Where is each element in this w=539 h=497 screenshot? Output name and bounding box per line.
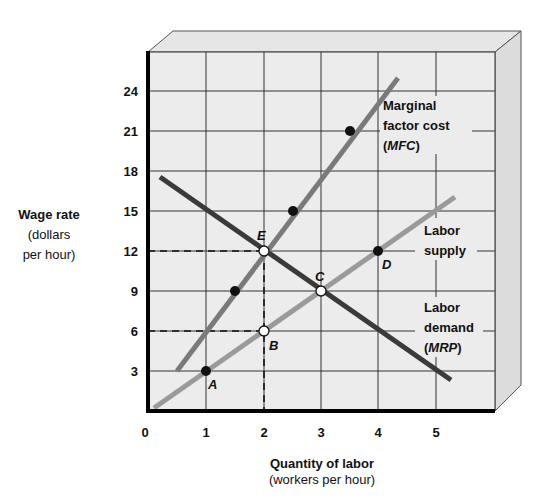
labor-market-chart: A B C D E Marginal factor cost (MFC) Lab… bbox=[0, 0, 539, 497]
svg-text:0: 0 bbox=[141, 425, 148, 440]
point-e-marker bbox=[259, 246, 269, 256]
box-right-face bbox=[495, 31, 521, 411]
point-b-label: B bbox=[269, 338, 278, 353]
mfc-point-9 bbox=[230, 286, 240, 296]
x-axis-title: Quantity of labor (workers per hour) bbox=[269, 456, 375, 487]
svg-text:per hour): per hour) bbox=[23, 247, 76, 262]
svg-text:4: 4 bbox=[374, 425, 382, 440]
point-b-marker bbox=[259, 326, 269, 336]
svg-text:5: 5 bbox=[432, 425, 439, 440]
svg-text:factor cost: factor cost bbox=[383, 118, 450, 133]
svg-text:(MFC): (MFC) bbox=[383, 138, 420, 153]
point-e-label: E bbox=[257, 228, 266, 243]
svg-text:24: 24 bbox=[124, 84, 139, 99]
y-tick-labels: 3 6 9 12 15 18 21 24 bbox=[124, 84, 139, 379]
svg-text:3: 3 bbox=[317, 425, 324, 440]
y-axis-title: Wage rate (dollars per hour) bbox=[18, 207, 80, 262]
svg-text:2: 2 bbox=[260, 425, 267, 440]
svg-text:12: 12 bbox=[124, 244, 138, 259]
svg-text:Wage rate: Wage rate bbox=[18, 207, 80, 222]
mfc-point-15 bbox=[288, 206, 298, 216]
svg-text:3: 3 bbox=[131, 364, 138, 379]
svg-text:demand: demand bbox=[424, 320, 474, 335]
svg-text:(MRP): (MRP) bbox=[424, 340, 462, 355]
svg-text:1: 1 bbox=[202, 425, 209, 440]
svg-text:(dollars: (dollars bbox=[28, 227, 71, 242]
svg-text:(workers per hour): (workers per hour) bbox=[269, 472, 375, 487]
svg-text:Quantity of labor: Quantity of labor bbox=[270, 456, 374, 471]
svg-text:15: 15 bbox=[124, 204, 138, 219]
point-c-label: C bbox=[315, 269, 325, 284]
point-d-marker bbox=[373, 246, 383, 256]
svg-text:18: 18 bbox=[124, 164, 138, 179]
svg-text:21: 21 bbox=[124, 124, 138, 139]
svg-text:6: 6 bbox=[131, 324, 138, 339]
mfc-point-21 bbox=[345, 126, 355, 136]
svg-text:supply: supply bbox=[424, 243, 467, 258]
svg-text:Labor: Labor bbox=[424, 300, 460, 315]
point-d-label: D bbox=[382, 257, 392, 272]
box-top-face bbox=[148, 31, 521, 52]
point-a-label: A bbox=[207, 377, 217, 392]
svg-text:Marginal: Marginal bbox=[383, 98, 436, 113]
x-tick-labels: 0 1 2 3 4 5 bbox=[141, 425, 439, 440]
point-a-marker bbox=[201, 366, 211, 376]
point-c-marker bbox=[316, 286, 326, 296]
svg-text:Labor: Labor bbox=[424, 223, 460, 238]
svg-text:9: 9 bbox=[131, 284, 138, 299]
